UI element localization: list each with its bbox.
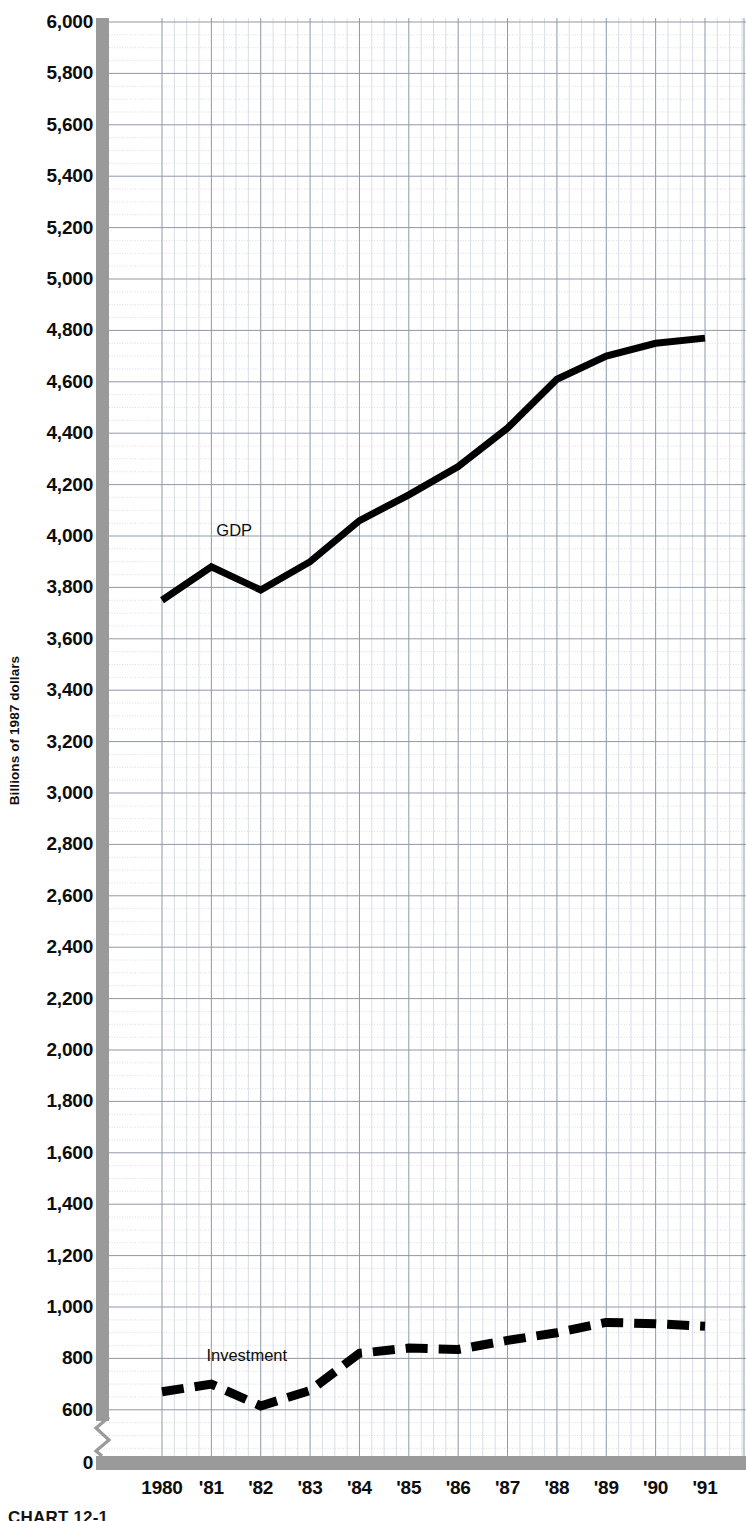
x-axis-tick-labels: 1980'81'82'83'84'85'86'87'88'89'90'91 [96, 1477, 746, 1507]
chart-figure: Billions of 1987 dollars 6,0005,8005,600… [0, 0, 746, 1521]
y-axis-tick-4600: 4,600 [1, 372, 93, 391]
y-axis-tick-0: 0 [1, 1453, 93, 1472]
y-axis-tick-5400: 5,400 [1, 166, 93, 185]
series-label-gdp: GDP [216, 521, 252, 540]
y-axis-tick-4400: 4,400 [1, 423, 93, 442]
x-axis-tick-1991: '91 [692, 1477, 717, 1499]
x-axis-tick-1983: '83 [298, 1477, 323, 1499]
y-axis-tick-3600: 3,600 [1, 629, 93, 648]
x-axis-tick-1982: '82 [248, 1477, 273, 1499]
y-axis-tick-1200: 1,200 [1, 1246, 93, 1265]
chart-caption: CHART 12-1 [8, 1508, 108, 1521]
x-axis-tick-1986: '86 [446, 1477, 471, 1499]
y-axis-tick-1400: 1,400 [1, 1194, 93, 1213]
x-axis-tick-1985: '85 [396, 1477, 421, 1499]
y-axis-tick-1800: 1,800 [1, 1091, 93, 1110]
y-axis-tick-3800: 3,800 [1, 577, 93, 596]
x-axis-tick-1981: '81 [199, 1477, 224, 1499]
y-axis-tick-6000: 6,000 [1, 12, 93, 31]
y-axis-tick-4200: 4,200 [1, 475, 93, 494]
y-axis-tick-1000: 1,000 [1, 1297, 93, 1316]
x-axis-tick-1980: 1980 [141, 1477, 182, 1499]
y-axis-tick-4800: 4,800 [1, 320, 93, 339]
chart-plot-area [96, 18, 746, 1464]
y-axis-tick-3000: 3,000 [1, 783, 93, 802]
y-axis-tick-800: 800 [1, 1348, 93, 1367]
y-axis-tick-2600: 2,600 [1, 886, 93, 905]
x-axis-tick-1987: '87 [495, 1477, 520, 1499]
y-axis-tick-5800: 5,800 [1, 63, 93, 82]
y-axis-tick-5600: 5,600 [1, 115, 93, 134]
y-axis-tick-600: 600 [1, 1400, 93, 1419]
y-axis-tick-2800: 2,800 [1, 834, 93, 853]
y-axis-tick-3200: 3,200 [1, 732, 93, 751]
y-axis-tick-3400: 3,400 [1, 680, 93, 699]
x-axis-tick-1988: '88 [544, 1477, 569, 1499]
x-axis-tick-1989: '89 [594, 1477, 619, 1499]
y-axis-tick-labels: 6,0005,8005,6005,4005,2005,0004,8004,600… [0, 0, 93, 1521]
y-axis-tick-4000: 4,000 [1, 526, 93, 545]
series-label-investment: Investment [206, 1346, 287, 1365]
x-axis-tick-1984: '84 [347, 1477, 372, 1499]
y-axis-tick-5000: 5,000 [1, 269, 93, 288]
y-axis-tick-2200: 2,200 [1, 989, 93, 1008]
y-axis-tick-1600: 1,600 [1, 1143, 93, 1162]
y-axis-tick-5200: 5,200 [1, 218, 93, 237]
x-axis-tick-1990: '90 [643, 1477, 668, 1499]
y-axis-tick-2000: 2,000 [1, 1040, 93, 1059]
y-axis-tick-2400: 2,400 [1, 937, 93, 956]
